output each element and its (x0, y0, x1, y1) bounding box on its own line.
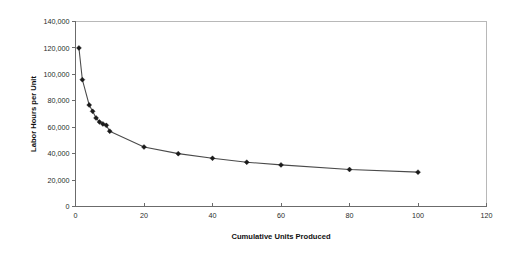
data-point-marker (210, 156, 215, 161)
y-tick-label: 80,000 (48, 96, 70, 105)
y-tick-label: 100,000 (44, 70, 70, 79)
y-tick-label: 20,000 (48, 176, 70, 185)
y-tick-label: 60,000 (48, 123, 70, 132)
learning-curve-chart: 020,00040,00060,00080,000100,000120,0001… (0, 0, 518, 262)
y-axis-title: Labor Hours per Unit (29, 76, 38, 152)
data-point-marker (279, 162, 284, 167)
x-tick-label: 100 (412, 211, 424, 220)
y-tick-label: 40,000 (48, 149, 70, 158)
axes-group (76, 22, 487, 207)
series-markers (76, 45, 420, 174)
series-line-labor-hours (79, 48, 418, 172)
x-tick-label: 40 (209, 211, 217, 220)
data-point-marker (347, 167, 352, 172)
data-point-marker (142, 145, 147, 150)
x-tick-label: 80 (346, 211, 354, 220)
x-tick-label: 0 (74, 211, 78, 220)
y-tick-label: 0 (66, 202, 70, 211)
x-axis-ticks: 020406080100120 (74, 203, 493, 220)
y-tick-label: 120,000 (44, 44, 70, 53)
data-point-marker (107, 129, 112, 134)
x-tick-label: 20 (140, 211, 148, 220)
data-point-marker (76, 45, 81, 50)
data-series-group (76, 45, 420, 174)
x-tick-label: 60 (277, 211, 285, 220)
data-point-marker (80, 77, 85, 82)
plot-frame (76, 22, 487, 207)
chart-canvas: 020,00040,00060,00080,000100,000120,0001… (0, 0, 518, 262)
data-point-marker (87, 103, 92, 108)
x-axis-title: Cumulative Units Produced (231, 232, 331, 241)
data-point-marker (176, 151, 181, 156)
y-axis-ticks: 020,00040,00060,00080,000100,000120,0001… (44, 17, 76, 211)
data-point-marker (244, 160, 249, 165)
data-point-marker (90, 109, 95, 114)
data-point-marker (416, 170, 421, 175)
x-tick-label: 120 (481, 211, 493, 220)
y-tick-label: 140,000 (44, 17, 70, 26)
